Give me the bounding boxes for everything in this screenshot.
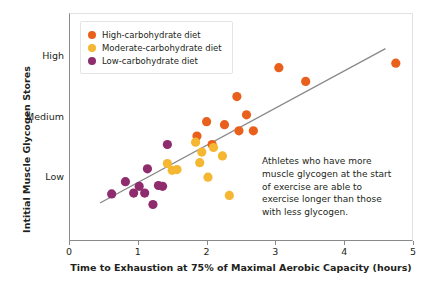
x-tick-mark-0 — [69, 241, 70, 245]
legend-item[interactable]: High-carbohydrate diet — [88, 28, 222, 41]
legend-item[interactable]: Moderate-carbohydrate diet — [88, 41, 222, 54]
legend-swatch-circle-icon — [88, 31, 96, 39]
legend-item-label: High-carbohydrate diet — [102, 30, 201, 40]
x-tick-label-5: 5 — [410, 246, 416, 257]
x-tick-label-1: 1 — [135, 246, 141, 257]
legend-item[interactable]: Low-carbohydrate diet — [88, 54, 222, 67]
x-tick-label-0: 0 — [66, 246, 72, 257]
legend-swatch-circle-icon — [88, 44, 96, 52]
x-tick-mark-2 — [207, 241, 208, 245]
legend-item-label: Moderate-carbohydrate diet — [102, 43, 222, 53]
legend: High-carbohydrate dietModerate-carbohydr… — [80, 21, 233, 74]
legend-item-label: Low-carbohydrate diet — [102, 56, 198, 66]
x-tick-mark-1 — [138, 241, 139, 245]
x-tick-label-3: 3 — [272, 246, 278, 257]
y-tick-label-high: High — [42, 49, 64, 60]
x-tick-mark-5 — [413, 241, 414, 245]
x-tick-mark-4 — [344, 241, 345, 245]
x-axis-title: Time to Exhaustion at 75% of Maximal Aer… — [69, 262, 413, 273]
x-tick-mark-3 — [275, 241, 276, 245]
annotation-text: Athletes who have more muscle glycogen a… — [262, 155, 394, 219]
scatter-plot-figure: LowMediumHigh Intitial Muscle Glycogen S… — [0, 0, 426, 287]
x-tick-label-4: 4 — [341, 246, 347, 257]
y-axis-ticks: LowMediumHigh — [0, 0, 64, 287]
legend-swatch-circle-icon — [88, 57, 96, 65]
y-axis-title: Intitial Muscle Glycogen Stores — [21, 50, 32, 250]
y-tick-label-medium: Medium — [26, 110, 64, 121]
x-tick-label-2: 2 — [204, 246, 210, 257]
y-tick-label-low: Low — [45, 171, 64, 182]
